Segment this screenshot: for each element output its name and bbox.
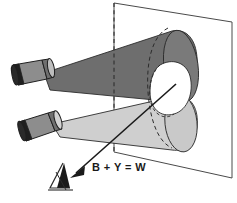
observer-eye-symbol (48, 163, 73, 190)
observer-eye-fill (57, 163, 70, 188)
color-equation-label: B + Y = W (92, 161, 146, 173)
lower-projector (16, 110, 64, 142)
arrow-head-icon (70, 166, 85, 178)
figure-canvas: B + Y = W (0, 0, 237, 203)
